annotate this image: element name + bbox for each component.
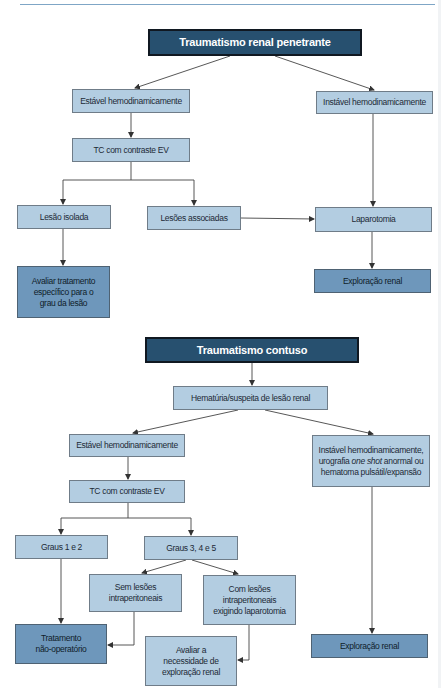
line: não-operatório	[35, 644, 86, 655]
emphasis: one shot	[352, 456, 382, 466]
line: Avaliar a	[176, 645, 206, 656]
blunt-renal-exploration-node: Exploração renal	[311, 634, 428, 658]
line: Sem lesões	[115, 582, 156, 593]
line: específico para o	[34, 287, 94, 298]
isolated-lesion-node: Lesão isolada	[17, 205, 111, 229]
nonoperative-treatment-node: Tratamento não-operatório	[15, 624, 107, 664]
evaluate-exploration-need-node: Avaliar a necessidade de exploração rena…	[145, 636, 237, 686]
line: grau da lesão	[40, 298, 88, 309]
evaluate-specific-treatment-node: Avaliar tratamento específico para o gra…	[17, 266, 110, 318]
grades-3-4-5-node: Graus 3, 4 e 5	[144, 536, 238, 560]
blunt-unstable-node: Instável hemodinamicamente, urografia on…	[312, 435, 430, 487]
penetrating-ct-node: TC com contraste EV	[72, 138, 190, 162]
laparotomy-node: Laparotomia	[315, 207, 432, 232]
line: Avaliar tratamento	[32, 276, 95, 287]
text: anormal ou	[382, 456, 424, 466]
hematuria-node: Hematúria/suspeita de lesão renal	[173, 386, 328, 410]
blunt-ct-node: TC com contraste EV	[69, 480, 185, 503]
blunt-stable-node: Estável hemodinamicamente	[69, 434, 185, 457]
associated-lesions-node: Lesões associadas	[147, 206, 241, 230]
line: hematoma pulsátil/expansão	[321, 467, 421, 478]
line: Com lesões	[229, 584, 271, 595]
penetrating-unstable-node: Instável hemodinamicamente	[316, 91, 433, 114]
line: exploração renal	[162, 667, 220, 678]
line: intraperitoneais	[109, 593, 162, 604]
blunt-trauma-title: Traumatismo contuso	[145, 337, 359, 363]
intraperitoneal-lesions-laparotomy-node: Com lesões intraperitoneais exigindo lap…	[203, 575, 296, 625]
no-intraperitoneal-lesions-node: Sem lesões intraperitoneais	[89, 574, 182, 612]
text: urografia	[319, 456, 352, 466]
line: necessidade de	[163, 656, 218, 667]
penetrating-renal-exploration-node: Exploração renal	[314, 269, 431, 293]
line: intraperitoneais	[223, 595, 276, 606]
line: urografia one shot anormal ou	[319, 456, 424, 467]
line: exigindo laparotomia	[213, 606, 285, 617]
grades-1-2-node: Graus 1 e 2	[15, 535, 108, 559]
penetrating-trauma-title: Traumatismo renal penetrante	[148, 29, 362, 56]
penetrating-stable-node: Estável hemodinamicamente	[72, 89, 190, 113]
line: Instável hemodinamicamente,	[319, 445, 424, 456]
line: Tratamento	[41, 633, 81, 644]
